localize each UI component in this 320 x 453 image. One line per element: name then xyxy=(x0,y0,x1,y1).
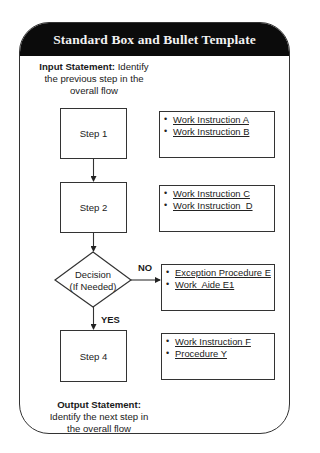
work-instruction-d-link[interactable]: Work Instruction D xyxy=(173,200,253,211)
output-statement-text-2: the overall flow xyxy=(44,423,154,435)
step-4-box: Step 4 xyxy=(60,330,127,382)
output-statement: Output Statement: Identify the next step… xyxy=(44,399,154,435)
step-2-bullets: Work Instruction C Work Instruction D xyxy=(159,185,275,232)
bullet-item: Procedure Y xyxy=(166,348,270,360)
step-2-label: Step 2 xyxy=(80,202,108,213)
bullet-item: Work Instruction F xyxy=(166,336,270,348)
bullet-item: Work Instruction A xyxy=(164,114,270,126)
decision-subtitle: (If Needed) xyxy=(55,281,131,293)
decision-title: Decision xyxy=(55,269,131,281)
decision-bullets: Exception Procedure E Work Aide E1 xyxy=(161,264,275,311)
step-4-bullets: Work Instruction F Procedure Y xyxy=(161,333,275,380)
decision-label: Decision (If Needed) xyxy=(55,269,131,292)
work-instruction-b-link[interactable]: Work Instruction B xyxy=(173,126,249,137)
step-1-label: Step 1 xyxy=(80,128,108,139)
bullet-item: Work Instruction D xyxy=(164,200,270,212)
work-aide-e1-link[interactable]: Work Aide E1 xyxy=(175,279,234,290)
work-instruction-a-link[interactable]: Work Instruction A xyxy=(173,114,249,125)
step-1-box: Step 1 xyxy=(60,108,127,159)
step-4-label: Step 4 xyxy=(80,351,108,362)
procedure-y-link[interactable]: Procedure Y xyxy=(175,348,227,359)
exception-procedure-e-link[interactable]: Exception Procedure E xyxy=(175,267,271,278)
output-statement-text-1: Identify the next step in xyxy=(44,411,154,423)
no-branch-label: NO xyxy=(138,262,152,273)
step-1-bullets: Work Instruction A Work Instruction B xyxy=(159,111,275,158)
step-2-box: Step 2 xyxy=(60,182,127,233)
work-instruction-f-link[interactable]: Work Instruction F xyxy=(175,336,251,347)
output-statement-label: Output Statement: xyxy=(57,399,141,410)
bullet-item: Work Instruction B xyxy=(164,126,270,138)
yes-branch-label: YES xyxy=(101,314,120,325)
work-instruction-c-link[interactable]: Work Instruction C xyxy=(173,188,250,199)
bullet-item: Exception Procedure E xyxy=(166,267,270,279)
bullet-item: Work Instruction C xyxy=(164,188,270,200)
bullet-item: Work Aide E1 xyxy=(166,279,270,291)
